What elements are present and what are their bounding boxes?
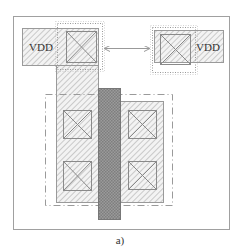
poly-gate bbox=[99, 89, 121, 220]
left-vdd-label: VDD bbox=[29, 41, 53, 53]
figure-caption: a) bbox=[116, 234, 125, 247]
right-diffusion bbox=[121, 102, 164, 203]
left-diffusion bbox=[57, 66, 99, 203]
right-vdd-label: VDD bbox=[196, 41, 220, 53]
layout-diagram: VDD VDD bbox=[0, 0, 240, 252]
left-vdd-rail: VDD bbox=[23, 29, 99, 66]
